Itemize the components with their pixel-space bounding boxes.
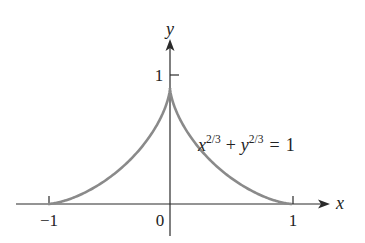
equation-x: x — [197, 135, 206, 155]
equation-y: y — [239, 135, 249, 155]
x-tick-label-neg1: −1 — [40, 211, 58, 230]
y-axis-label: y — [164, 19, 174, 39]
x-tick-label-0: 0 — [156, 211, 165, 230]
equation-rhs: 1 — [286, 135, 295, 155]
equation-y-exponent: 2/3 — [249, 133, 264, 145]
astroid-figure: −1 0 1 1 x y x2/3+y2/3=1 — [0, 0, 365, 243]
equation-label: x2/3+y2/3=1 — [197, 133, 295, 155]
x-tick-label-1: 1 — [289, 211, 298, 230]
equation-x-exponent: 2/3 — [206, 133, 221, 145]
equation-plus: + — [226, 135, 236, 155]
equation-equals: = — [270, 135, 280, 155]
y-tick-label-1: 1 — [155, 66, 164, 85]
x-axis-label: x — [335, 193, 344, 213]
